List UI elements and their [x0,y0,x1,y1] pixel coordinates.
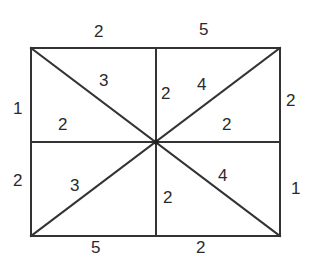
label-left-bottom: 2 [13,171,22,190]
label-top-left: 2 [94,22,103,41]
center-point [154,140,159,145]
label-lr-diagonal: 4 [218,166,227,185]
label-ur-diagonal: 4 [197,75,206,94]
label-ur-vertical: 2 [161,84,170,103]
label-bottom-left: 5 [91,238,100,257]
label-ul-diagonal: 3 [99,71,108,90]
label-ur-lower: 2 [222,115,231,134]
label-lr-vertical: 2 [163,188,172,207]
label-ll-diagonal: 3 [70,176,79,195]
label-right-bottom: 1 [291,179,300,198]
label-right-top: 2 [286,91,295,110]
label-bottom-right: 2 [196,238,205,257]
label-top-right: 5 [199,20,208,39]
geometry-diagram: 2 5 1 2 2 1 5 2 3 2 2 4 2 3 2 4 [0,0,322,267]
label-left-top: 1 [13,99,22,118]
label-ul-lower: 2 [58,115,67,134]
